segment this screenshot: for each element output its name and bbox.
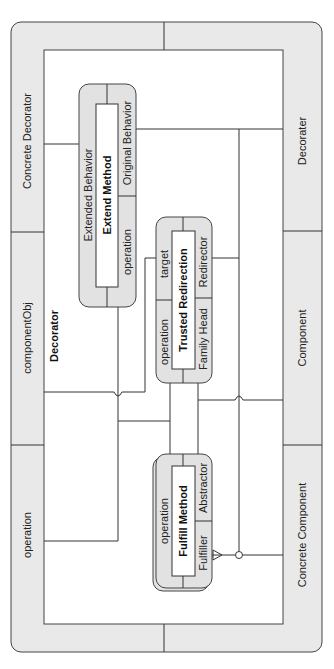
port-extended-behavior: Extended Behavior	[82, 148, 94, 241]
junction-circle-icon	[236, 552, 243, 559]
node-trusted-redirection[interactable]: Trusted Redirection target operation Red…	[156, 217, 212, 383]
decorator-diagram: Concrete Decorator componentObj operatio…	[0, 0, 334, 669]
lane-label-component: Component	[296, 310, 308, 367]
lane-label-componentobj: componentObj	[21, 302, 33, 374]
node-extend-title: Extend Method	[101, 156, 113, 235]
diagram-title: Decorator	[48, 309, 60, 362]
port-extend-operation: operation	[121, 229, 133, 275]
port-target: target	[158, 250, 170, 278]
lane-label-concrete-component: Concrete Component	[296, 483, 308, 588]
node-trusted-title: Trusted Redirection	[177, 248, 189, 352]
node-fulfill-title: Fulfill Method	[177, 485, 189, 556]
lane-label-operation: operation	[21, 512, 33, 558]
port-abstractor: Abstractor	[197, 463, 209, 513]
lane-label-decorater: Decorater	[296, 117, 308, 166]
port-family-head: Family Head	[197, 308, 209, 370]
port-trusted-operation: operation	[158, 319, 170, 365]
port-original-behavior: Original Behavior	[121, 100, 133, 185]
node-extend-method[interactable]: Extend Method Extended Behavior Original…	[79, 84, 136, 307]
node-fulfill-method[interactable]: Fulfill Method operation Abstractor Fulf…	[153, 454, 212, 591]
lane-label-concrete-decorator: Concrete Decorator	[21, 93, 33, 189]
port-redirector: Redirector	[197, 236, 209, 287]
port-fulfill-operation: operation	[158, 498, 170, 544]
port-fulfiller: Fulfiller	[197, 535, 209, 571]
